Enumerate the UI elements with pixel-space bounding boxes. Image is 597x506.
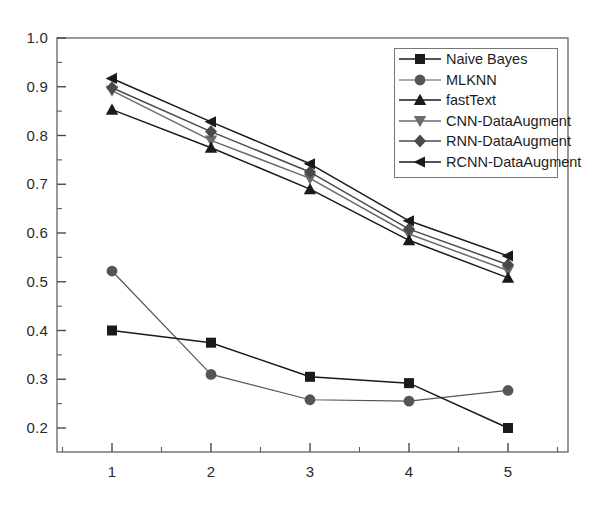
legend-item: Naive Bayes [395, 49, 557, 70]
legend-item: fastText [395, 90, 557, 111]
data-point-marker-triangle-up [304, 183, 316, 194]
y-axis-tick-label: 0.6 [0, 224, 48, 241]
data-point-marker-circle [404, 396, 415, 407]
legend-item-label: Naive Bayes [443, 52, 527, 67]
data-point-marker-circle [305, 394, 316, 405]
data-point-marker-triangle-left [414, 156, 425, 167]
data-point-marker-triangle-up [205, 141, 217, 152]
y-axis-tick-label: 0.7 [0, 175, 48, 192]
data-point-marker-square [415, 54, 425, 64]
y-axis-tick-label: 0.3 [0, 370, 48, 387]
data-point-marker-diamond [414, 135, 426, 148]
chart-series-mlknn [107, 266, 514, 407]
y-axis-tick-label: 1.0 [0, 29, 48, 46]
legend-marker-square-icon [397, 49, 443, 69]
data-point-marker-circle [415, 74, 426, 85]
legend-item-label: CNN-DataAugment [443, 114, 571, 129]
legend-item: CNN-DataAugment [395, 111, 557, 132]
data-point-marker-square [503, 423, 513, 433]
legend-item-label: RNN-DataAugment [443, 134, 571, 149]
y-axis-tick-label: 0.2 [0, 419, 48, 436]
legend-item: MLKNN [395, 70, 557, 91]
data-point-marker-square [107, 326, 117, 336]
x-axis-tick-label: 1 [92, 463, 132, 480]
chart-figure: 1.00.90.80.70.60.50.40.30.2 12345 Naive … [0, 0, 597, 506]
y-axis-tick-label: 0.8 [0, 127, 48, 144]
legend-marker-triangle-down-icon [397, 111, 443, 131]
x-axis-tick-label: 2 [191, 463, 231, 480]
x-axis-tick-label: 4 [389, 463, 429, 480]
legend-marker-diamond-icon [397, 131, 443, 151]
data-point-marker-circle [206, 369, 217, 380]
legend-item-label: RCNN-DataAugment [443, 155, 581, 170]
data-point-marker-triangle-up [502, 272, 514, 283]
data-point-marker-square [404, 378, 414, 388]
data-point-marker-square [206, 338, 216, 348]
legend-marker-triangle-left-icon [397, 152, 443, 172]
legend-marker-triangle-up-icon [397, 90, 443, 110]
legend-marker-circle-icon [397, 70, 443, 90]
data-point-marker-triangle-left [205, 116, 216, 127]
chart-series-naive-bayes [107, 326, 513, 434]
legend-item: RCNN-DataAugment [395, 152, 557, 173]
data-point-marker-circle [503, 385, 514, 396]
x-axis-tick-label: 3 [290, 463, 330, 480]
y-axis-tick-label: 0.9 [0, 78, 48, 95]
data-point-marker-triangle-up [106, 103, 118, 114]
data-point-marker-square [305, 372, 315, 382]
legend-item-label: fastText [443, 93, 496, 108]
y-axis-tick-label: 0.4 [0, 322, 48, 339]
data-point-marker-circle [107, 266, 118, 277]
legend-item-label: MLKNN [443, 73, 497, 88]
legend-item: RNN-DataAugment [395, 131, 557, 152]
x-axis-tick-label: 5 [488, 463, 528, 480]
y-axis-tick-label: 0.5 [0, 273, 48, 290]
chart-legend: Naive BayesMLKNNfastTextCNN-DataAugmentR… [394, 48, 558, 178]
